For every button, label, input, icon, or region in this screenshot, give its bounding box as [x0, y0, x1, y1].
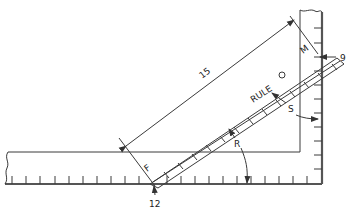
- mark-f-label: F: [142, 162, 152, 173]
- angle-r: R: [229, 129, 247, 183]
- right-scale-ticks: [314, 28, 322, 169]
- reading-9-callout: 9: [320, 53, 346, 63]
- reading-top-label: 9: [340, 53, 346, 63]
- rule-square-diagram: RULE 15 M F 9 12 R S: [0, 0, 350, 212]
- rule-label: RULE: [249, 83, 274, 104]
- rule-hinge-icon: [279, 72, 285, 78]
- square-vertical-tongue: [300, 10, 322, 184]
- square-horizontal-blade: [5, 152, 322, 184]
- reading-12-callout: 12: [149, 186, 160, 209]
- reading-bottom-label: 12: [149, 199, 160, 209]
- angle-r-label: R: [234, 139, 240, 149]
- angle-s-label: S: [288, 104, 294, 114]
